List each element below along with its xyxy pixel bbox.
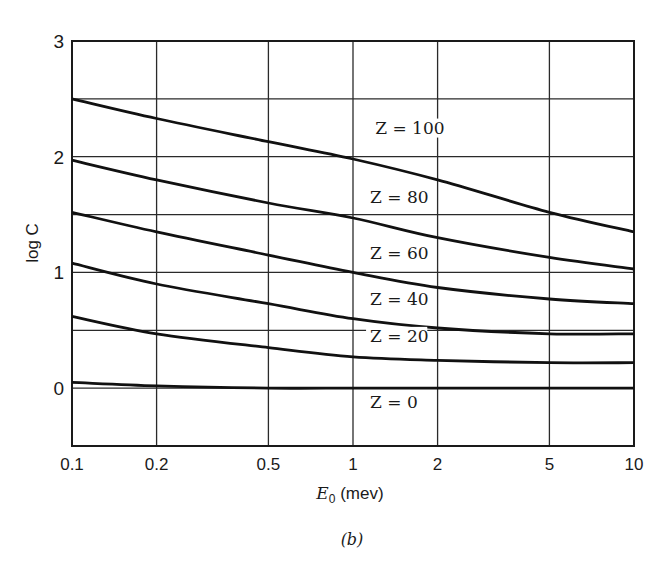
y-axis-label: log C (23, 223, 42, 263)
x-tick-label: 0.2 (145, 455, 169, 474)
x-tick-label: 10 (625, 455, 644, 474)
x-tick-label: 2 (433, 455, 442, 474)
curve-label: Z = 20 (370, 326, 429, 346)
y-tick-label: 1 (53, 262, 64, 283)
y-axis-ticks: 0123 (53, 31, 64, 399)
y-tick-label: 0 (53, 378, 64, 399)
curve-label: Z = 100 (375, 118, 444, 138)
y-tick-label: 3 (53, 31, 64, 52)
curve-label: Z = 60 (370, 243, 429, 263)
x-tick-label: 1 (348, 455, 357, 474)
chart: Z = 100Z = 80Z = 60Z = 40Z = 20Z = 0 012… (0, 0, 668, 565)
x-axis-label-symbol: E (315, 483, 329, 503)
x-axis-label: E0 (mev) (315, 483, 383, 506)
x-axis-ticks: 0.10.20.512510 (60, 455, 643, 474)
curve-label: Z = 80 (370, 187, 429, 207)
figure-caption: (b) (341, 530, 364, 549)
x-axis-label-unit: (mev) (335, 484, 383, 503)
y-tick-label: 2 (53, 147, 64, 168)
x-tick-label: 5 (545, 455, 554, 474)
x-tick-label: 0.1 (60, 455, 84, 474)
x-tick-label: 0.5 (257, 455, 281, 474)
curve-label: Z = 40 (370, 289, 429, 309)
curve-labels: Z = 100Z = 80Z = 60Z = 40Z = 20Z = 0 (366, 118, 445, 412)
curve-label: Z = 0 (370, 392, 418, 412)
